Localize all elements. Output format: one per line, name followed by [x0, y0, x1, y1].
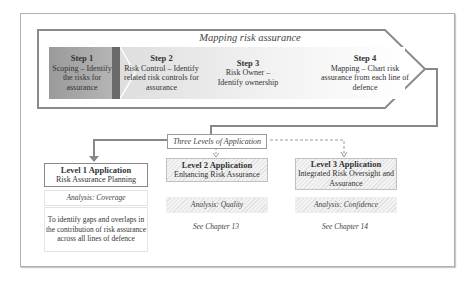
level-1-title: Level 1 Application — [45, 166, 147, 176]
level-3-title: Level 3 Application — [296, 160, 396, 170]
level-3-analysis: Analysis: Confidence — [295, 197, 397, 213]
level-1-description-text: To identify gaps and overlaps in the con… — [45, 215, 147, 244]
level-3-box: Level 3 Application Integrated Risk Over… — [295, 158, 397, 190]
step-4-text: Mapping – Chart risk assurance from each… — [320, 64, 410, 93]
level-1-analysis: Analysis: Coverage — [44, 190, 148, 206]
level-2-analysis: Analysis: Quality — [166, 197, 268, 213]
level-3-reference: See Chapter 14 — [295, 222, 395, 231]
step-1: Step 1 Scoping – Identify the risks for … — [49, 47, 115, 99]
level-1-subtitle: Risk Assurance Planning — [45, 175, 147, 185]
level-3-subtitle: Integrated Risk Oversight and Assurance — [296, 169, 396, 188]
diagram-title: Mapping risk assurance — [150, 32, 350, 43]
step-4: Step 4 Mapping – Chart risk assurance fr… — [320, 47, 410, 99]
three-levels-label: Three Levels of Application — [167, 134, 267, 149]
level-2-box: Level 2 Application Enhancing Risk Assur… — [166, 158, 268, 182]
level-2-subtitle: Enhancing Risk Assurance — [167, 170, 267, 180]
step-2-text: Risk Control – Identify related risk con… — [124, 64, 199, 93]
step-2: Step 2 Risk Control – Identify related r… — [124, 47, 199, 99]
step-3-text: Risk Owner – Identify ownership — [213, 68, 283, 87]
step-3-label: Step 3 — [213, 59, 283, 69]
step-4-label: Step 4 — [320, 54, 410, 64]
step-1-label: Step 1 — [49, 54, 115, 64]
level-2-reference: See Chapter 13 — [166, 222, 266, 231]
level-1-description: To identify gaps and overlaps in the con… — [44, 207, 148, 252]
step-1-text: Scoping – Identify the risks for assuran… — [49, 64, 115, 93]
step-1-divider — [112, 47, 120, 99]
level-2-title: Level 2 Application — [167, 161, 267, 171]
step-2-label: Step 2 — [124, 54, 199, 64]
level-1-box: Level 1 Application Risk Assurance Plann… — [44, 163, 148, 187]
step-3: Step 3 Risk Owner – Identify ownership — [213, 47, 283, 99]
